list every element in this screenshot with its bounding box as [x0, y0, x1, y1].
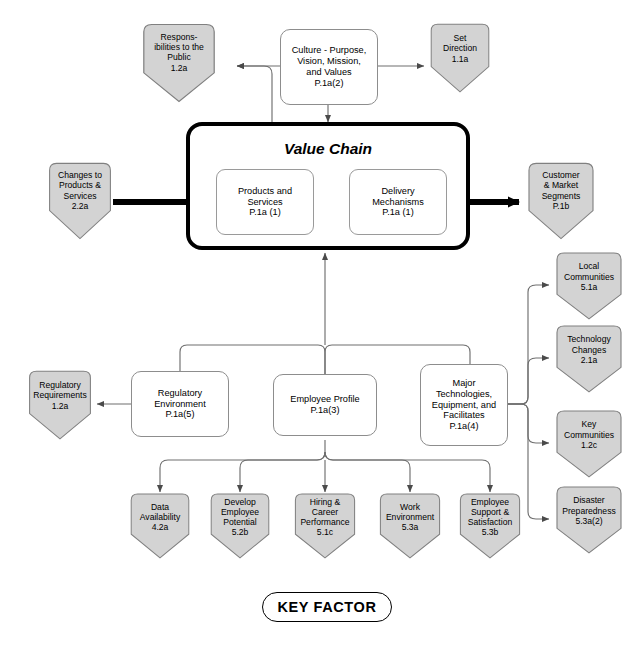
key-factor-label: Key Communities 1.2c [549, 409, 629, 461]
wire-tech-to-technology-changes [508, 358, 549, 404]
key-factor-label: Respons- ibilities to the Public 1.2a [135, 22, 223, 83]
key-factor-label: Work Environment 5.3a [373, 492, 447, 542]
process-delivery-mechanisms[interactable]: Delivery Mechanisms P.1a (1) [349, 169, 447, 235]
key-factor-changes-to-products-and-services[interactable]: Changes to Products & Services 2.2a [42, 161, 118, 241]
key-factor-data-availability[interactable]: Data Availability 4.2a [124, 492, 196, 560]
wire-employee-to-data-availability [160, 440, 325, 492]
key-factor-label: Employee Support & Satisfaction 5.3b [453, 492, 527, 542]
process-products-and-services[interactable]: Products and Services P.1a (1) [216, 169, 314, 235]
wire-tech-to-key-communities [508, 404, 549, 443]
wire-value-chain-to-responsibilities [237, 66, 272, 124]
process-major-technologies[interactable]: Major Technologies, Equipment, and Facil… [420, 364, 508, 446]
key-factor-label: Data Availability 4.2a [124, 492, 196, 542]
process-employee-profile[interactable]: Employee Profile P.1a(3) [273, 374, 377, 436]
key-factor-hiring-and-career-performance[interactable]: Hiring & Career Performance 5.1c [288, 492, 362, 560]
value-chain-title: Value Chain [190, 140, 466, 158]
key-factor-local-communities[interactable]: Local Communities 5.1a [549, 251, 629, 321]
key-factor-key-communities[interactable]: Key Communities 1.2c [549, 409, 629, 479]
value-chain-diagram: Value Chain Products and Services P.1a (… [0, 0, 643, 652]
wire-employee-to-develop-potential [240, 452, 325, 492]
key-factor-disaster-preparedness[interactable]: Disaster Preparedness 5.3a(2) [549, 485, 629, 555]
key-factor-label: Local Communities 5.1a [549, 251, 629, 303]
key-factor-work-environment[interactable]: Work Environment 5.3a [373, 492, 447, 560]
key-factor-label: Technology Changes 2.1a [549, 324, 629, 376]
key-factor-set-direction[interactable]: Set Direction 1.1a [424, 22, 496, 94]
legend-key-factor: KEY FACTOR [262, 592, 392, 622]
process-culture[interactable]: Culture - Purpose, Vision, Mission, and … [280, 29, 378, 105]
key-factor-label: Disaster Preparedness 5.3a(2) [549, 485, 629, 537]
wire-tech-to-local-communities [508, 285, 549, 404]
key-factor-label: Changes to Products & Services 2.2a [42, 161, 118, 220]
wire-employee-to-employee-support [325, 452, 490, 492]
key-factor-technology-changes[interactable]: Technology Changes 2.1a [549, 324, 629, 394]
key-factor-develop-employee-potential[interactable]: Develop Employee Potential 5.2b [204, 492, 276, 560]
process-regulatory-environment[interactable]: Regulatory Environment P.1a(5) [131, 371, 229, 437]
key-factor-employee-support-and-satisfaction[interactable]: Employee Support & Satisfaction 5.3b [453, 492, 527, 560]
key-factor-label: Hiring & Career Performance 5.1c [288, 492, 362, 542]
key-factor-customer-and-market-segments[interactable]: Customer & Market Segments P.1b [521, 161, 601, 241]
key-factor-label: Set Direction 1.1a [424, 22, 496, 75]
wire-employee-to-work-environment [325, 452, 410, 492]
key-factor-label: Regulatory Requirements 1.2a [22, 369, 98, 422]
key-factor-label: Customer & Market Segments P.1b [521, 161, 601, 220]
key-factor-label: Develop Employee Potential 5.2b [204, 492, 276, 542]
key-factor-regulatory-requirements[interactable]: Regulatory Requirements 1.2a [22, 369, 98, 441]
key-factor-responsibilities-to-the-public[interactable]: Respons- ibilities to the Public 1.2a [135, 22, 223, 104]
